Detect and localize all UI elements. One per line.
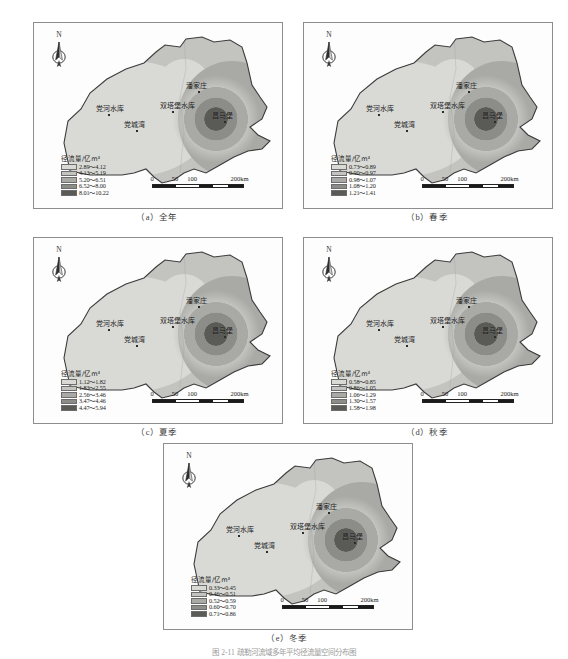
scale-tick-labels: 050100200km bbox=[422, 175, 514, 184]
scale-tick-3: 200km bbox=[500, 175, 518, 182]
scale-tick-0: 0 bbox=[150, 390, 153, 397]
scale-tick-3: 200km bbox=[500, 390, 518, 397]
legend-range-label: 0.71～0.86 bbox=[209, 611, 236, 617]
legend-swatch-1 bbox=[331, 379, 347, 385]
map-panel-b: N 潘家庄双塔堡水库党河水库党城湾昌马堡径流量/亿m³0.73～0.890.90… bbox=[303, 22, 551, 227]
scale-bar-d: 050100200km bbox=[422, 390, 514, 403]
map-panel-d: N 潘家庄双塔堡水库党河水库党城湾昌马堡径流量/亿m³0.58～0.850.86… bbox=[303, 237, 551, 442]
scale-tick-3: 200km bbox=[230, 175, 248, 182]
place-marker-党城湾 bbox=[136, 345, 138, 347]
place-label-党河水库: 党河水库 bbox=[366, 106, 394, 113]
legend-swatch-4 bbox=[61, 184, 77, 190]
scale-tick-0: 0 bbox=[420, 390, 423, 397]
scale-segment bbox=[199, 185, 214, 187]
legend-range-label: 8.01～10.22 bbox=[79, 190, 109, 196]
scale-bar-graphic bbox=[422, 399, 514, 403]
legend-swatch-2 bbox=[61, 171, 77, 177]
map-panel-c: N 潘家庄双塔堡水库党河水库党城湾昌马堡径流量/亿m³1.12～1.821.83… bbox=[33, 237, 281, 442]
scale-segment bbox=[228, 185, 243, 187]
place-label-双塔堡水库: 双塔堡水库 bbox=[430, 103, 465, 110]
place-label-昌马堡: 昌马堡 bbox=[212, 328, 233, 335]
legend-rows: 0.73～0.890.90～0.970.98～1.071.08～1.201.21… bbox=[331, 164, 376, 196]
panel-caption-c: （c）夏季 bbox=[33, 425, 281, 437]
legend-swatch-2 bbox=[331, 386, 347, 392]
place-marker-党河水库 bbox=[378, 329, 380, 331]
place-label-党城湾: 党城湾 bbox=[124, 337, 145, 344]
scale-tick-labels: 050100200km bbox=[422, 390, 514, 399]
scale-segment bbox=[343, 606, 358, 608]
place-label-党河水库: 党河水库 bbox=[366, 321, 394, 328]
scale-tick-2: 100 bbox=[457, 390, 467, 397]
scale-tick-1: 50 bbox=[172, 390, 179, 397]
compass-rose-a: N bbox=[48, 31, 70, 71]
place-label-潘家庄: 潘家庄 bbox=[186, 298, 207, 305]
place-marker-潘家庄 bbox=[468, 91, 470, 93]
place-label-党河水库: 党河水库 bbox=[96, 321, 124, 328]
place-marker-昌马堡 bbox=[224, 336, 226, 338]
scale-segment bbox=[283, 606, 306, 608]
scale-segment bbox=[498, 185, 513, 187]
north-label: N bbox=[326, 31, 331, 39]
scale-tick-0: 0 bbox=[150, 175, 153, 182]
scale-tick-2: 100 bbox=[187, 390, 197, 397]
place-marker-潘家庄 bbox=[468, 306, 470, 308]
scale-segment bbox=[153, 185, 176, 187]
scale-segment bbox=[446, 185, 469, 187]
legend-title: 径流量/亿m³ bbox=[331, 368, 376, 378]
legend-swatch-2 bbox=[191, 592, 207, 598]
legend-c: 径流量/亿m³1.12～1.821.83～2.552.56～3.463.47～4… bbox=[61, 368, 106, 411]
scale-tick-1: 50 bbox=[442, 390, 449, 397]
map-frame-d: N 潘家庄双塔堡水库党河水库党城湾昌马堡径流量/亿m³0.58～0.850.86… bbox=[303, 237, 553, 424]
scale-tick-1: 50 bbox=[442, 175, 449, 182]
place-marker-潘家庄 bbox=[328, 512, 330, 514]
place-marker-党河水库 bbox=[108, 114, 110, 116]
legend-range-label: 4.47～5.94 bbox=[79, 405, 106, 411]
place-label-昌马堡: 昌马堡 bbox=[212, 113, 233, 120]
map-frame-a: N 潘家庄双塔堡水库党河水库党城湾昌马堡径流量/亿m³2.89～4.124.13… bbox=[33, 22, 283, 209]
legend-row: 1.21～1.41 bbox=[331, 190, 376, 196]
legend-swatch-3 bbox=[61, 392, 77, 398]
scale-segment bbox=[423, 400, 446, 402]
legend-rows: 1.12～1.821.83～2.552.56～3.463.47～4.464.47… bbox=[61, 379, 106, 411]
legend-b: 径流量/亿m³0.73～0.890.90～0.970.98～1.071.08～1… bbox=[331, 153, 376, 196]
place-marker-党城湾 bbox=[266, 551, 268, 553]
legend-swatch-1 bbox=[331, 164, 347, 170]
scale-tick-labels: 050100200km bbox=[282, 596, 374, 605]
legend-row: 1.58～1.98 bbox=[331, 405, 376, 411]
panel-caption-b: （b）春季 bbox=[303, 210, 551, 222]
scale-tick-1: 50 bbox=[172, 175, 179, 182]
place-label-党城湾: 党城湾 bbox=[394, 337, 415, 344]
place-marker-潘家庄 bbox=[198, 91, 200, 93]
scale-segment bbox=[498, 400, 513, 402]
scale-bar-a: 050100200km bbox=[152, 175, 244, 188]
scale-bar-graphic bbox=[152, 184, 244, 188]
place-marker-党河水库 bbox=[238, 535, 240, 537]
legend-swatch-4 bbox=[331, 399, 347, 405]
place-marker-昌马堡 bbox=[494, 121, 496, 123]
scale-segment bbox=[358, 606, 373, 608]
place-marker-双塔堡水库 bbox=[172, 111, 174, 113]
place-label-双塔堡水库: 双塔堡水库 bbox=[290, 524, 325, 531]
place-marker-双塔堡水库 bbox=[442, 326, 444, 328]
place-marker-昌马堡 bbox=[354, 542, 356, 544]
compass-rose-c: N bbox=[48, 246, 70, 286]
legend-swatch-4 bbox=[331, 184, 347, 190]
legend-title: 径流量/亿m³ bbox=[61, 368, 106, 378]
legend-swatch-1 bbox=[191, 585, 207, 591]
place-label-党河水库: 党河水库 bbox=[226, 527, 254, 534]
place-marker-党城湾 bbox=[406, 130, 408, 132]
scale-tick-2: 100 bbox=[317, 596, 327, 603]
map-panel-a: N 潘家庄双塔堡水库党河水库党城湾昌马堡径流量/亿m³2.89～4.124.13… bbox=[33, 22, 281, 227]
legend-swatch-3 bbox=[331, 177, 347, 183]
legend-a: 径流量/亿m³2.89～4.124.13～5.195.20～6.516.52～8… bbox=[61, 153, 109, 196]
place-label-党城湾: 党城湾 bbox=[124, 122, 145, 129]
legend-range-label: 1.58～1.98 bbox=[349, 405, 376, 411]
place-marker-党河水库 bbox=[108, 329, 110, 331]
legend-swatch-5 bbox=[331, 190, 347, 196]
scale-segment bbox=[153, 400, 176, 402]
scale-tick-0: 0 bbox=[280, 596, 283, 603]
scale-segment bbox=[483, 400, 498, 402]
legend-swatch-3 bbox=[61, 177, 77, 183]
scale-tick-2: 100 bbox=[187, 175, 197, 182]
place-label-潘家庄: 潘家庄 bbox=[456, 83, 477, 90]
